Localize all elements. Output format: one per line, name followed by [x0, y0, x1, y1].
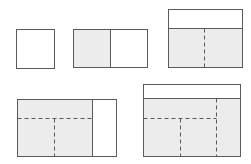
stage-2-two-squares: [74, 30, 148, 68]
stage-1-square: [17, 30, 55, 69]
stage-5-shaded-block: [144, 99, 241, 157]
stage-3-header-over-block: [169, 10, 243, 68]
stage-4-block-with-side-strip: [18, 100, 117, 157]
layout-growth-diagram: [0, 0, 251, 164]
stage-3-shaded-block: [169, 29, 243, 68]
stage-5-header-over-subdivided-block: [144, 85, 241, 157]
stage-2-shaded-cell: [74, 30, 111, 68]
